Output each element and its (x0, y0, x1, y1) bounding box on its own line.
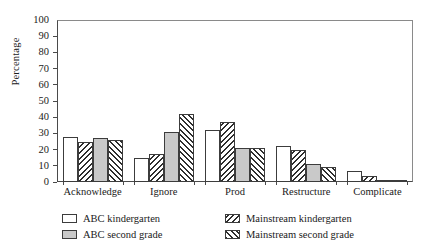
y-tick-label: 100 (19, 12, 49, 28)
legend-item: ABC second grade (62, 229, 225, 240)
x-tick-label: Prod (225, 186, 245, 197)
bar-group (347, 20, 407, 182)
x-tick-mark (205, 182, 206, 185)
bar-group (63, 20, 123, 182)
bar (93, 138, 108, 182)
x-tick-mark (265, 182, 266, 185)
bar-group (205, 20, 265, 182)
y-tick-label: 30 (19, 125, 49, 141)
x-tick-mark (347, 182, 348, 185)
y-tick-label: 70 (19, 61, 49, 77)
legend-swatch-icon (62, 214, 77, 223)
x-tick-mark (194, 182, 195, 185)
x-tick-mark (407, 182, 408, 185)
y-tick-label: 0 (19, 174, 49, 190)
bar (149, 154, 164, 182)
bar (250, 148, 265, 182)
bar (291, 150, 306, 182)
x-tick-mark (123, 182, 124, 185)
bar (377, 180, 392, 182)
y-tick-label: 10 (19, 158, 49, 174)
y-tick-label: 80 (19, 44, 49, 60)
legend-label: Mainstream second grade (246, 229, 354, 240)
bar (306, 164, 321, 182)
bar-group (134, 20, 194, 182)
x-tick-mark (336, 182, 337, 185)
bar (347, 171, 362, 182)
x-tick-label: Acknowledge (63, 186, 121, 197)
bar (235, 148, 250, 182)
bar (220, 122, 235, 182)
bar (134, 158, 149, 182)
bar (392, 180, 407, 182)
x-tick-label: Ignore (150, 186, 177, 197)
y-tick-label: 90 (19, 28, 49, 44)
bar (63, 137, 78, 182)
x-tick-mark (134, 182, 135, 185)
legend-item: Mainstream kindergarten (225, 213, 402, 224)
chart-legend: ABC kindergartenMainstream kindergartenA… (62, 210, 402, 242)
bar (362, 176, 377, 182)
bar (205, 130, 220, 182)
legend-swatch-icon (62, 230, 77, 239)
bar (276, 146, 291, 182)
bar-chart-figure: Percentage 0102030405060708090100 Acknow… (0, 0, 422, 247)
x-tick-mark (276, 182, 277, 185)
x-tick-label: Restructure (282, 186, 330, 197)
bar (179, 114, 194, 182)
legend-item: ABC kindergarten (62, 213, 225, 224)
y-tick-label: 50 (19, 93, 49, 109)
bar (164, 132, 179, 182)
y-tick-label: 20 (19, 142, 49, 158)
x-tick-mark (63, 182, 64, 185)
bar (78, 142, 93, 183)
legend-item: Mainstream second grade (225, 229, 402, 240)
y-tick-label: 60 (19, 77, 49, 93)
bar-group (276, 20, 336, 182)
y-tick-label: 40 (19, 109, 49, 125)
legend-label: Mainstream kindergarten (246, 213, 352, 224)
legend-swatch-icon (225, 214, 240, 223)
x-tick-label: Complicate (353, 186, 401, 197)
legend-label: ABC second grade (83, 229, 162, 240)
legend-swatch-icon (225, 230, 240, 239)
legend-label: ABC kindergarten (83, 213, 160, 224)
bar-series-container (57, 20, 413, 182)
bar (108, 140, 123, 182)
bar (321, 167, 336, 182)
